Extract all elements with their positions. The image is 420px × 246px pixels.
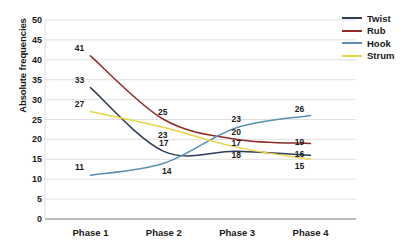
legend-swatch-icon (342, 30, 362, 32)
y-tick-label: 0 (16, 214, 42, 224)
point-label: 11 (75, 162, 84, 172)
series-line-strum (90, 112, 310, 160)
y-axis-ticks: 50454035302520151050 (14, 0, 42, 246)
point-label: 16 (295, 149, 304, 159)
point-label: 26 (295, 104, 304, 114)
y-tick-label: 45 (16, 35, 42, 45)
point-label: 17 (231, 138, 240, 148)
point-label: 27 (75, 99, 84, 109)
line-chart: Absolute frequencies 5045403530252015105… (0, 0, 420, 246)
point-label: 23 (231, 114, 240, 124)
y-tick-label: 15 (16, 154, 42, 164)
legend-item-twist[interactable]: Twist (342, 12, 416, 25)
chart-legend: TwistRubHookStrum (342, 12, 416, 62)
legend-label: Twist (367, 14, 391, 24)
y-tick-label: 35 (16, 75, 42, 85)
legend-swatch-icon (342, 55, 362, 57)
y-tick-label: 40 (16, 55, 42, 65)
point-label: 33 (75, 75, 84, 85)
y-tick-label: 50 (16, 15, 42, 25)
y-tick-label: 25 (16, 115, 42, 125)
x-tick-label-2: Phase 2 (146, 227, 182, 238)
series-line-hook (90, 116, 310, 176)
legend-item-hook[interactable]: Hook (342, 37, 416, 50)
legend-swatch-icon (342, 17, 362, 19)
point-label: 19 (295, 137, 304, 147)
point-label: 18 (231, 150, 240, 160)
series-line-twist (90, 88, 310, 156)
point-label: 20 (231, 127, 240, 137)
x-tick-label-4: Phase 4 (293, 227, 329, 238)
x-tick-label-1: Phase 1 (73, 227, 109, 238)
point-label: 15 (295, 161, 304, 171)
y-tick-label: 20 (16, 134, 42, 144)
legend-item-strum[interactable]: Strum (342, 50, 416, 63)
series-line-rub (90, 56, 310, 144)
legend-swatch-icon (342, 42, 362, 44)
legend-item-rub[interactable]: Rub (342, 25, 416, 38)
legend-label: Strum (367, 51, 394, 61)
legend-label: Hook (367, 39, 391, 49)
point-label: 14 (162, 166, 171, 176)
legend-label: Rub (367, 26, 385, 36)
x-tick-label-3: Phase 3 (219, 227, 255, 238)
y-tick-label: 10 (16, 174, 42, 184)
point-label: 41 (75, 43, 84, 53)
point-label: 25 (158, 107, 167, 117)
point-label: 23 (158, 130, 167, 140)
y-tick-label: 5 (16, 194, 42, 204)
y-tick-label: 30 (16, 95, 42, 105)
